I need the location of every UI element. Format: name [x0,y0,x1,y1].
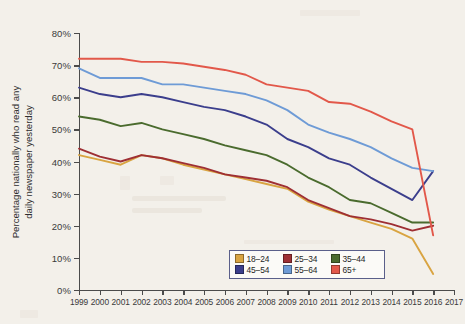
y-tick-label: 70% [52,60,71,71]
x-tick-label: 1999 [70,297,88,307]
x-tick-label: 2014 [382,297,400,307]
line-series-35-44 [79,117,433,223]
legend-label: 65+ [343,265,357,275]
x-tick-label: 2003 [153,297,171,307]
x-tick [454,290,455,295]
chart-legend: 18–2425–3435–4445–5455–6465+ [229,250,385,279]
x-tick [121,290,122,295]
x-tick-label: 2001 [112,297,130,307]
x-tick-label: 2007 [237,297,255,307]
x-tick-label: 2013 [362,297,380,307]
x-tick [287,290,288,295]
x-tick [79,290,80,295]
legend-item-25-34[interactable]: 25–34 [283,254,331,264]
legend-swatch-icon [283,254,292,263]
legend-swatch-icon [283,265,292,274]
legend-item-45-54[interactable]: 45–54 [235,265,283,275]
x-tick [433,290,434,295]
legend-swatch-icon [235,265,244,274]
x-tick-label: 2006 [216,297,234,307]
x-tick-label: 2011 [320,297,338,307]
legend-label: 18–24 [247,254,270,264]
legend-swatch-icon [331,265,340,274]
legend-item-55-64[interactable]: 55–64 [283,265,331,275]
x-tick [350,290,351,295]
x-tick [308,290,309,295]
x-tick [412,290,413,295]
y-tick-label: 50% [52,124,71,135]
legend-row: 18–2425–3435–44 [235,254,379,264]
x-tick-label: 2005 [195,297,213,307]
legend-item-18-24[interactable]: 18–24 [235,254,283,264]
x-tick [267,290,268,295]
line-series-25-34 [79,149,433,231]
x-tick [100,290,101,295]
line-series-65+ [79,59,433,236]
x-tick-label: 2012 [341,297,359,307]
y-axis-title-line2: daily newspaper yesterday [23,55,36,270]
chart-figure: Percentage nationally who read any daily… [0,0,465,324]
y-tick-label: 40% [52,156,71,167]
x-tick [162,290,163,295]
y-axis-title-line1: Percentage nationally who read any [10,55,23,270]
x-tick [183,290,184,295]
y-tick-label: 60% [52,92,71,103]
x-tick [204,290,205,295]
legend-item-35-44[interactable]: 35–44 [331,254,379,264]
y-tick-label: 30% [52,188,71,199]
legend-label: 25–34 [295,254,318,264]
x-tick-label: 2008 [257,297,275,307]
x-tick-label: 2000 [91,297,109,307]
x-tick-label: 2015 [403,297,421,307]
x-tick-label: 2002 [132,297,150,307]
scan-artifact [20,310,38,318]
y-tick-label: 0% [57,285,71,296]
x-tick [142,290,143,295]
legend-label: 35–44 [343,254,366,264]
x-tick-label: 2017 [445,297,463,307]
x-tick [371,290,372,295]
y-tick-label: 10% [52,252,71,263]
x-tick [329,290,330,295]
scan-artifact [300,10,360,16]
y-axis-title: Percentage nationally who read any daily… [10,55,35,270]
x-tick-label: 2009 [278,297,296,307]
legend-swatch-icon [331,254,340,263]
line-series-45-54 [79,88,433,200]
x-tick [246,290,247,295]
legend-label: 55–64 [295,265,318,275]
x-tick-label: 2016 [424,297,442,307]
y-tick-label: 80% [52,28,71,39]
x-tick-label: 2004 [174,297,192,307]
y-tick-label: 20% [52,220,71,231]
x-tick-label: 2010 [299,297,317,307]
x-tick [392,290,393,295]
legend-swatch-icon [235,254,244,263]
legend-label: 45–54 [247,265,270,275]
legend-item-65+[interactable]: 65+ [331,265,379,275]
x-tick [225,290,226,295]
legend-row: 45–5455–6465+ [235,265,379,275]
